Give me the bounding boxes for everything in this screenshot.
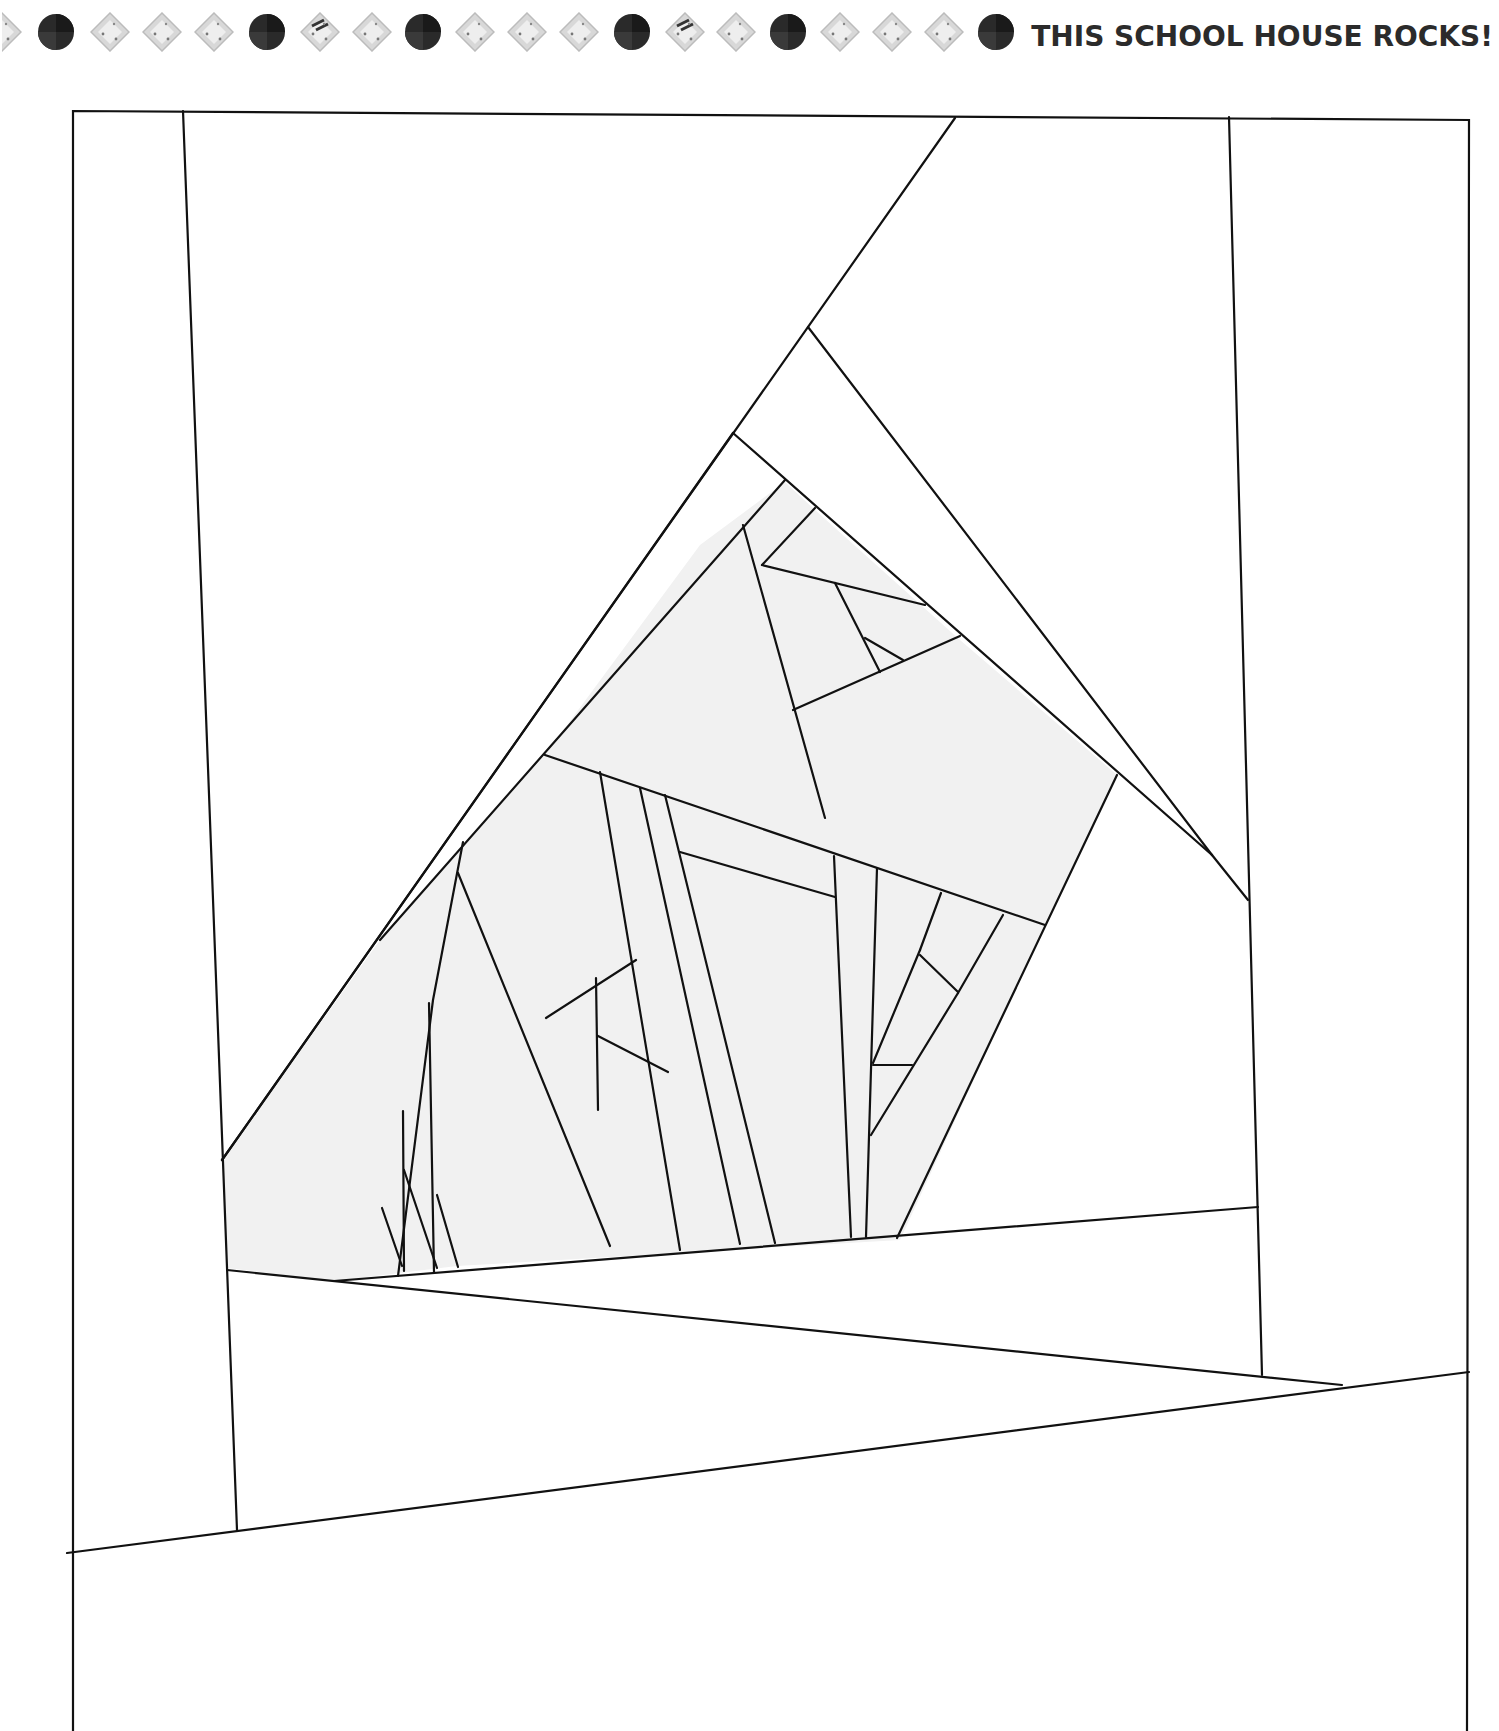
quilt-pattern-diagram (0, 0, 1499, 1731)
shaded-region (222, 482, 1117, 1281)
